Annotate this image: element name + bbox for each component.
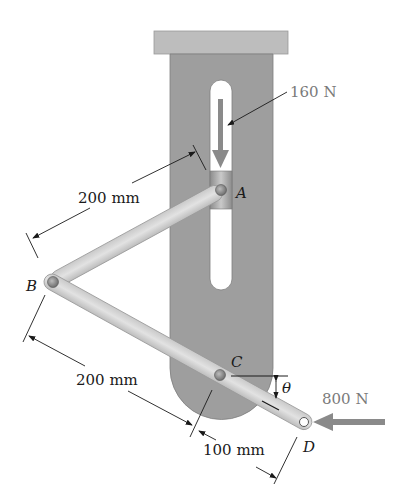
mechanism-diagram: 160 N 800 N 200 mm 200 mm 100 mm A B C D… (0, 0, 405, 502)
dim-arrow-bc-upper (29, 336, 85, 366)
top-support (154, 31, 288, 54)
dim-extension-b-bottom (23, 295, 45, 342)
pin-b-label: B (25, 277, 37, 295)
vertical-force-label: 160 N (290, 83, 337, 101)
dim-arrow-cd-left (199, 431, 216, 440)
horizontal-force-arrow (313, 413, 385, 431)
dim-arrow-ab-lower (33, 208, 90, 238)
pin-a-label: A (234, 184, 247, 202)
dim-bc-label: 200 mm (76, 371, 138, 389)
pin-c-icon (215, 370, 226, 381)
pin-c-label: C (231, 353, 243, 371)
angle-label: θ (282, 379, 291, 397)
dim-arrow-cd-right (256, 467, 276, 478)
horizontal-force-label: 800 N (322, 390, 369, 408)
pin-d-icon (300, 418, 309, 427)
pin-a-icon (216, 185, 227, 196)
dim-ab-label: 200 mm (78, 189, 140, 207)
dim-extension-d (274, 437, 297, 484)
pin-b-icon (48, 277, 59, 288)
dim-cd-label: 100 mm (203, 441, 265, 459)
pin-d-label: D (302, 438, 315, 456)
